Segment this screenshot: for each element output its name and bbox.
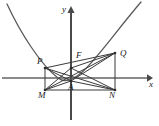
point-marker-F: [70, 67, 73, 70]
point-label-M: M: [38, 91, 46, 100]
point-label-P: P: [37, 57, 43, 66]
x-axis-label: x: [149, 80, 153, 89]
point-marker-P: [44, 67, 47, 70]
point-marker-Q: [114, 52, 117, 55]
point-label-A: A: [68, 83, 74, 92]
parabola-curve: [7, 2, 141, 81]
segment-A-N: [71, 81, 115, 90]
axes-group: [2, 6, 153, 120]
geometry-figure: y x P F Q A M N: [0, 0, 159, 126]
point-label-Q: Q: [120, 49, 127, 58]
point-label-N: N: [109, 91, 115, 100]
diagram-canvas: [0, 0, 159, 126]
y-axis-arrow: [67, 6, 74, 13]
point-label-F: F: [76, 51, 82, 60]
y-axis-label: y: [62, 5, 66, 14]
